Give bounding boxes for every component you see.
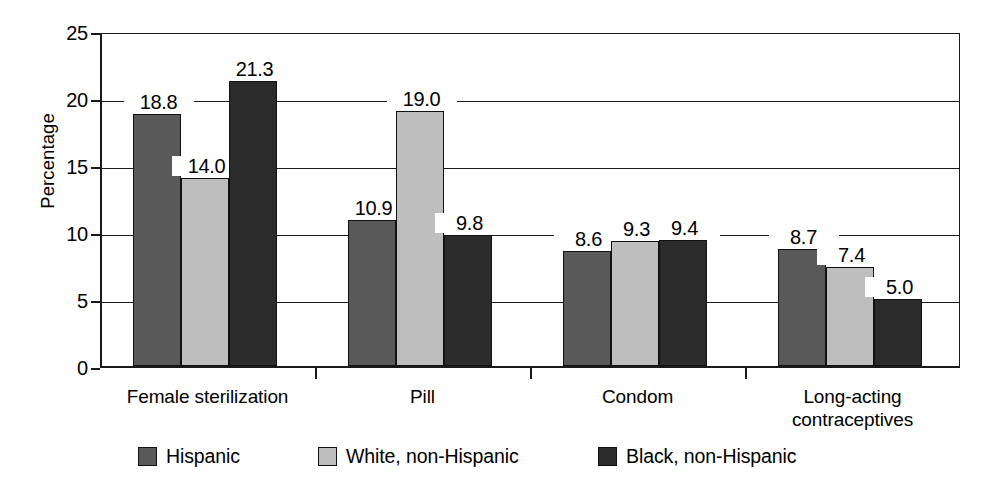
y-tick-mark xyxy=(91,100,100,102)
y-tick-label: 20 xyxy=(42,90,88,110)
bar xyxy=(133,114,181,366)
x-tick-mark xyxy=(745,368,747,379)
bar xyxy=(229,81,277,366)
legend-swatch-icon xyxy=(318,447,337,466)
legend-item[interactable]: Hispanic xyxy=(138,443,240,469)
y-tick-label: 10 xyxy=(42,224,88,244)
x-category-line: Long-acting xyxy=(745,385,960,408)
y-tick-label: 5 xyxy=(42,291,88,311)
bar xyxy=(181,178,229,366)
y-tick-mark xyxy=(91,167,100,169)
x-category-label: Condom xyxy=(530,385,745,408)
bar-chart: Percentage 0510152025 18.814.021.310.919… xyxy=(0,0,990,490)
x-category-line: Pill xyxy=(315,385,530,408)
plot-area: 18.814.021.310.919.09.88.69.39.48.77.45.… xyxy=(100,33,960,368)
bar xyxy=(611,241,659,366)
x-category-line: Female sterilization xyxy=(100,385,315,408)
x-tick-mark xyxy=(530,368,532,379)
y-tick-label: 15 xyxy=(42,157,88,177)
legend-label: Black, non-Hispanic xyxy=(626,446,796,466)
legend-label: White, non-Hispanic xyxy=(346,446,519,466)
y-tick-mark xyxy=(91,301,100,303)
x-category-label: Long-actingcontraceptives xyxy=(745,385,960,431)
bar xyxy=(778,249,826,366)
bar xyxy=(659,240,707,366)
legend-swatch-icon xyxy=(598,447,617,466)
legend-swatch-icon xyxy=(138,447,157,466)
x-category-line: Condom xyxy=(530,385,745,408)
bar-value-label: 19.0 xyxy=(387,89,457,109)
bar xyxy=(874,299,922,366)
y-tick-mark xyxy=(91,33,100,35)
bar xyxy=(396,111,444,366)
bar-value-label: 5.0 xyxy=(865,277,935,297)
bar-value-label: 18.8 xyxy=(124,92,194,112)
bar-value-label: 7.4 xyxy=(817,245,887,265)
y-tick-label: 25 xyxy=(42,23,88,43)
y-tick-mark xyxy=(91,234,100,236)
legend-item[interactable]: Black, non-Hispanic xyxy=(598,443,796,469)
bar-value-label: 21.3 xyxy=(220,59,290,79)
bar xyxy=(348,220,396,366)
bar-value-label: 9.4 xyxy=(650,218,720,238)
bar xyxy=(563,251,611,366)
x-category-line: contraceptives xyxy=(745,408,960,431)
bar xyxy=(444,235,492,366)
y-tick-mark xyxy=(91,368,100,370)
legend-label: Hispanic xyxy=(166,446,240,466)
x-category-label: Pill xyxy=(315,385,530,408)
y-tick-label: 0 xyxy=(42,358,88,378)
bar-value-label: 9.8 xyxy=(435,213,505,233)
x-tick-mark xyxy=(315,368,317,379)
chart-legend: HispanicWhite, non-HispanicBlack, non-Hi… xyxy=(0,443,990,475)
bars-layer: 18.814.021.310.919.09.88.69.39.48.77.45.… xyxy=(102,34,959,366)
legend-item[interactable]: White, non-Hispanic xyxy=(318,443,519,469)
x-category-label: Female sterilization xyxy=(100,385,315,408)
